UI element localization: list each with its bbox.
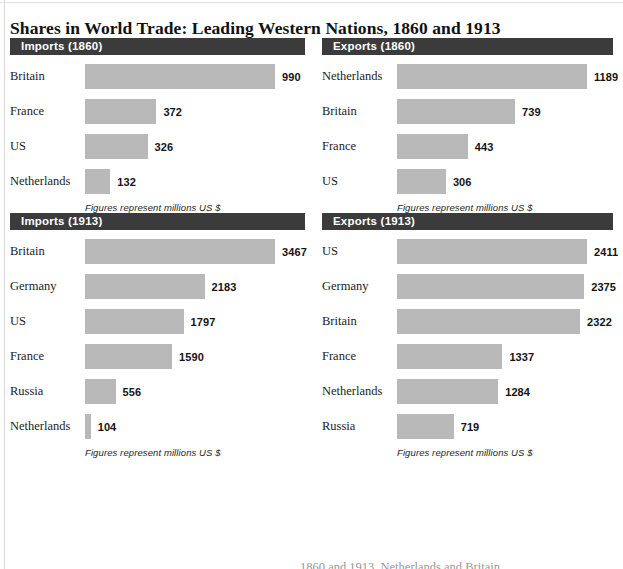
panel-footnote-exports-1913: Figures represent millions US $ [397, 447, 613, 458]
bar-value-label: 1337 [509, 351, 534, 363]
bar-row: US326 [10, 134, 305, 159]
bar-row: Netherlands104 [10, 414, 305, 439]
bar-row: Britain990 [10, 64, 305, 89]
bar-row: US306 [322, 169, 613, 194]
bar-category-label: Russia [322, 420, 397, 433]
bar-track: 1189 [397, 64, 618, 89]
bar-fill [85, 134, 148, 159]
bar-value-label: 2183 [212, 281, 237, 293]
chart-panel-grid: Imports (1860) Britain990France372US326N… [0, 38, 623, 458]
bar-value-label: 443 [475, 141, 494, 153]
bar-category-label: Netherlands [10, 420, 85, 433]
bar-category-label: Britain [322, 105, 397, 118]
bar-track: 1337 [397, 344, 613, 369]
panel-header-imports-1913: Imports (1913) [10, 213, 305, 230]
bar-fill [397, 134, 468, 159]
bar-row: Russia556 [10, 379, 305, 404]
bar-fill [397, 64, 587, 89]
bar-category-label: US [322, 175, 397, 188]
bar-row: Netherlands1284 [322, 379, 613, 404]
bar-track: 132 [85, 169, 305, 194]
bar-track: 3467 [85, 239, 307, 264]
bar-fill [397, 309, 580, 334]
bar-category-label: France [10, 350, 85, 363]
bar-value-label: 2375 [591, 281, 616, 293]
bar-track: 990 [85, 64, 305, 89]
bar-value-label: 2411 [594, 246, 618, 258]
bar-row: Britain3467 [10, 239, 305, 264]
panel-header-exports-1860: Exports (1860) [322, 38, 613, 55]
bar-list-imports-1860: Britain990France372US326Netherlands132 [10, 64, 305, 194]
bar-value-label: 556 [123, 386, 142, 398]
bar-track: 443 [397, 134, 613, 159]
bar-category-label: US [322, 245, 397, 258]
bar-category-label: US [10, 315, 85, 328]
bar-fill [397, 379, 498, 404]
bar-row: Russia719 [322, 414, 613, 439]
bar-value-label: 1284 [505, 386, 530, 398]
bar-fill [85, 274, 205, 299]
bar-fill [85, 169, 110, 194]
bar-track: 1284 [397, 379, 613, 404]
bar-track: 372 [85, 99, 305, 124]
chart-panel-imports-1913: Imports (1913) Britain3467Germany2183US1… [0, 213, 312, 458]
bar-row: France372 [10, 99, 305, 124]
panel-footnote-imports-1860: Figures represent millions US $ [85, 202, 305, 213]
panel-header-imports-1860: Imports (1860) [10, 38, 305, 55]
panel-header-exports-1913: Exports (1913) [322, 213, 613, 230]
bar-track: 719 [397, 414, 613, 439]
bar-value-label: 719 [461, 421, 480, 433]
bar-category-label: Netherlands [322, 70, 397, 83]
bar-track: 2375 [397, 274, 616, 299]
bar-category-label: France [322, 140, 397, 153]
bar-value-label: 104 [98, 421, 117, 433]
bar-row: US1797 [10, 309, 305, 334]
bar-track: 2183 [85, 274, 305, 299]
chart-panel-row-1860: Imports (1860) Britain990France372US326N… [0, 38, 623, 213]
bar-track: 1590 [85, 344, 305, 369]
bar-category-label: Britain [322, 315, 397, 328]
chart-panel-exports-1913: Exports (1913) US2411Germany2375Britain2… [312, 213, 623, 458]
page-bottom-partial-text: 1860 and 1913. Netherlands and Britain [300, 560, 623, 569]
bar-fill [85, 99, 156, 124]
bar-row: France1590 [10, 344, 305, 369]
bar-fill [85, 379, 116, 404]
bar-row: Britain2322 [322, 309, 613, 334]
bar-category-label: Netherlands [10, 175, 85, 188]
bar-category-label: US [10, 140, 85, 153]
bar-category-label: Germany [322, 280, 397, 293]
bar-row: Netherlands132 [10, 169, 305, 194]
bar-fill [397, 169, 446, 194]
bar-row: France443 [322, 134, 613, 159]
panel-footnote-imports-1913: Figures represent millions US $ [85, 447, 305, 458]
bar-value-label: 2322 [587, 316, 612, 328]
bar-track: 306 [397, 169, 613, 194]
bar-track: 104 [85, 414, 305, 439]
bar-fill [397, 99, 515, 124]
bar-value-label: 1590 [179, 351, 204, 363]
bar-fill [397, 274, 584, 299]
bar-track: 326 [85, 134, 305, 159]
bar-list-exports-1860: Netherlands1189Britain739France443US306 [322, 64, 613, 194]
bar-fill [85, 309, 184, 334]
bar-value-label: 739 [522, 106, 541, 118]
bar-fill [85, 344, 172, 369]
bar-value-label: 306 [453, 176, 472, 188]
bar-category-label: Germany [10, 280, 85, 293]
bar-track: 1797 [85, 309, 305, 334]
bar-value-label: 1189 [594, 71, 618, 83]
panel-title-exports-1860: Exports (1860) [333, 41, 415, 53]
bar-list-imports-1913: Britain3467Germany2183US1797France1590Ru… [10, 239, 305, 439]
bar-fill [85, 414, 91, 439]
bar-list-exports-1913: US2411Germany2375Britain2322France1337Ne… [322, 239, 613, 439]
panel-footnote-exports-1860: Figures represent millions US $ [397, 202, 613, 213]
bar-category-label: France [322, 350, 397, 363]
bar-row: Germany2183 [10, 274, 305, 299]
bar-value-label: 372 [163, 106, 182, 118]
panel-title-imports-1913: Imports (1913) [21, 216, 102, 228]
bar-track: 2322 [397, 309, 613, 334]
chart-panel-imports-1860: Imports (1860) Britain990France372US326N… [0, 38, 312, 213]
chart-panel-row-1913: Imports (1913) Britain3467Germany2183US1… [0, 213, 623, 458]
scan-top-edge-artifact [0, 2, 623, 3]
bar-row: Germany2375 [322, 274, 613, 299]
